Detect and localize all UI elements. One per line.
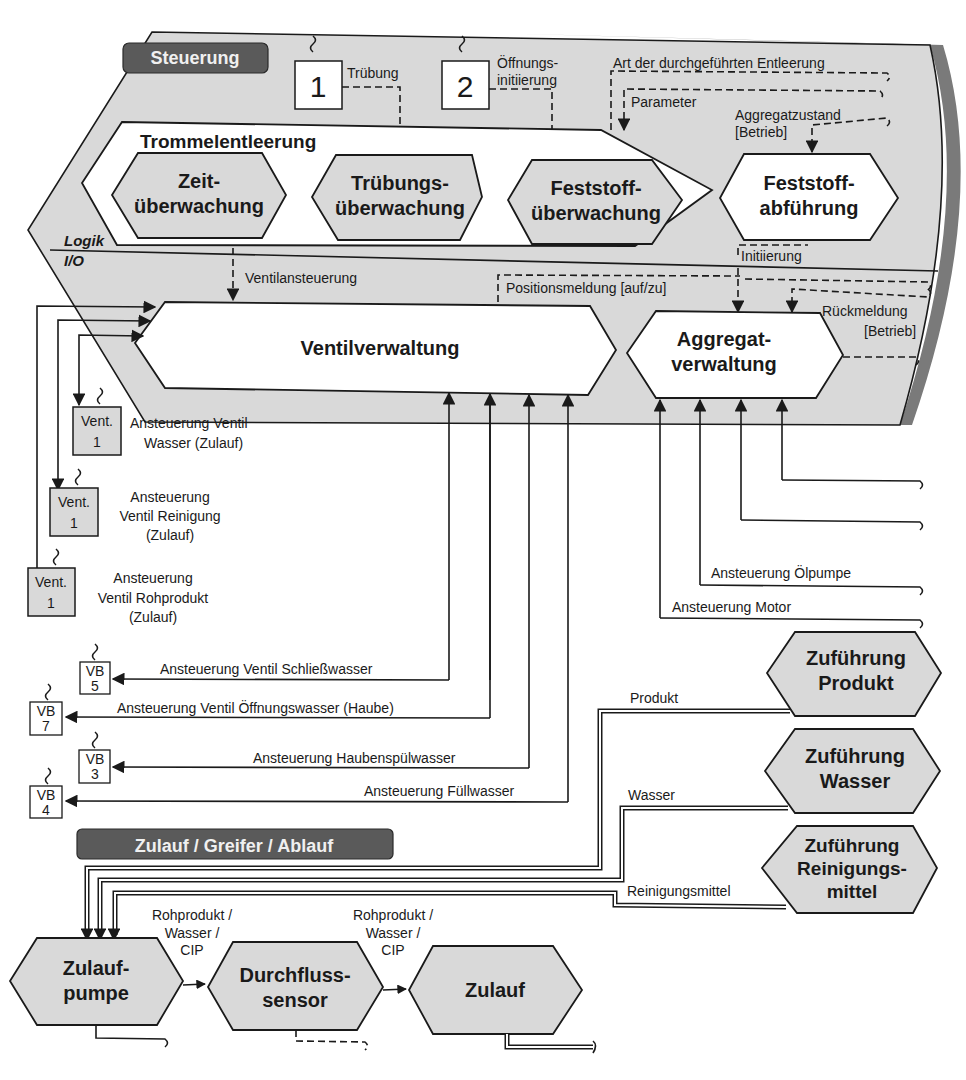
aggregat-horizontal-3 [741,520,923,530]
valve-wasser-label-1: Ansteuerung Ventil [130,415,248,431]
module-zeitueberwachung[interactable]: Zeit- überwachung [112,153,286,238]
signal-label-aggregatzustand-betrieb: [Betrieb] [735,124,787,140]
vb5-label: Ansteuerung Ventil Schließwasser [160,661,373,677]
svg-text:Wasser: Wasser [820,770,891,792]
layer-label-io: I/O [64,252,84,269]
pipe-label-produkt: Produkt [630,690,678,706]
flow-arrow-2 [383,989,406,990]
wire-icon [46,684,51,700]
wire-icon [93,732,98,748]
valve-vb3[interactable]: VB 3 [79,732,110,783]
trommelentleerung-title: Trommelentleerung [140,131,316,152]
sensor-2-label-line2: initiierung [497,72,557,88]
flow-label-1-line2: Wasser / [165,925,220,941]
module-aggregatverwaltung[interactable]: Aggregat- verwaltung [627,311,843,398]
svg-text:überwachung: überwachung [134,195,264,217]
module-ventilverwaltung[interactable]: Ventilverwaltung [135,302,616,395]
svg-text:VB: VB [86,751,105,767]
supply-produkt[interactable]: Zuführung Produkt [767,632,941,716]
svg-text:Produkt: Produkt [818,672,894,694]
svg-text:Feststoff-: Feststoff- [763,172,854,194]
sensor-2-label-line1: Öffnungs- [497,54,559,71]
sensor-1-label: Trübung [347,65,399,81]
vb3-label: Ansteuerung Haubenspülwasser [253,750,456,766]
svg-text:pumpe: pumpe [63,982,129,1004]
svg-text:sensor: sensor [262,989,328,1011]
vb3-horizontal [113,767,529,768]
sensor-2-number: 2 [457,70,474,103]
signal-label-oelpumpe: Ansteuerung Ölpumpe [711,564,851,581]
valve-rohprodukt-label-1: Ansteuerung [113,570,192,586]
svg-text:überwachung: überwachung [531,202,661,224]
svg-text:VB: VB [37,703,56,719]
svg-text:mittel: mittel [827,881,878,902]
module-truebungsueberwachung[interactable]: Trübungs- überwachung [312,155,482,240]
vb7-label: Ansteuerung Ventil Öffnungswasser (Haube… [117,699,394,716]
module-feststoffueberwachung[interactable]: Feststoff- überwachung [508,160,682,244]
signal-label-positionsmeldung: Positionsmeldung [auf/zu] [506,280,666,296]
svg-text:Zulauf-: Zulauf- [63,957,130,979]
svg-text:Vent.: Vent. [58,494,90,510]
steuerung-header: Steuerung [123,43,268,73]
svg-text:überwachung: überwachung [335,197,465,219]
flow-arrow-1 [183,984,205,985]
motor-horizontal [660,618,923,628]
zulauf-greifer-ablauf-title: Zulauf / Greifer / Ablauf [135,836,334,856]
pipe-label-wasser: Wasser [628,787,675,803]
valve-wasser-label-2: Wasser (Zulauf) [144,435,243,451]
svg-text:Aggregat-: Aggregat- [677,328,771,350]
svg-text:Zuführung: Zuführung [805,835,900,856]
pipe-label-reinigungsmittel: Reinigungsmittel [627,883,731,899]
signal-label-initiierung: Initiierung [741,248,802,264]
wire-icon [98,388,103,404]
svg-text:verwaltung: verwaltung [671,353,777,375]
svg-text:Durchfluss-: Durchfluss- [239,964,350,986]
wire-icon [46,768,51,784]
svg-text:Ventilverwaltung: Ventilverwaltung [301,337,460,359]
valve-rohprodukt-label-3: (Zulauf) [129,609,177,625]
flow-label-1-line3: CIP [180,942,203,958]
svg-text:4: 4 [42,802,50,818]
svg-text:Feststoff-: Feststoff- [550,177,641,199]
svg-text:7: 7 [42,718,50,734]
zulaufpumpe-outlet [96,1025,168,1047]
layer-label-logik: Logik [64,232,105,249]
valve-vb7[interactable]: VB 7 [30,684,62,735]
flow-label-2-line2: Wasser / [366,925,421,941]
valve-vent-wasser[interactable]: Vent. 1 [73,388,121,455]
valve-vb4[interactable]: VB 4 [30,768,62,818]
wire-icon [76,469,81,485]
module-zulauf[interactable]: Zulauf [409,946,582,1034]
signal-label-rueckmeldung-betrieb: [Betrieb] [864,323,916,339]
valve-reinigung-label-3: (Zulauf) [146,527,194,543]
svg-text:1: 1 [47,595,55,611]
supply-wasser[interactable]: Zuführung Wasser [765,729,940,813]
svg-text:abführung: abführung [760,197,859,219]
svg-text:VB: VB [37,787,56,803]
valve-vent-rohprodukt[interactable]: Vent. 1 [28,549,75,616]
svg-text:Vent.: Vent. [35,574,67,590]
svg-text:Zulauf: Zulauf [465,979,525,1001]
vb4-horizontal [66,801,568,802]
module-feststoffabfuehrung[interactable]: Feststoff- abführung [720,154,898,240]
flow-label-1-line1: Rohprodukt / [152,907,232,923]
zulauf-outlet-pipe [507,1034,596,1053]
svg-text:Zeit-: Zeit- [178,170,220,192]
sensor-1-number: 1 [310,70,327,103]
signal-label-motor: Ansteuerung Motor [672,599,791,615]
durchflusssensor-outlet [296,1030,368,1050]
flow-label-2-line1: Rohprodukt / [353,907,433,923]
wire-icon [54,549,59,565]
module-zulaufpumpe[interactable]: Zulauf- pumpe [10,938,183,1025]
signal-label-parameter: Parameter [631,94,697,110]
svg-text:Zuführung: Zuführung [805,745,905,767]
svg-text:Reinigungs-: Reinigungs- [797,858,907,879]
signal-label-aggregatzustand: Aggregatzustand [735,107,841,123]
svg-text:3: 3 [91,766,99,782]
oelpumpe-horizontal [700,585,923,595]
zulauf-greifer-ablauf-header: Zulauf / Greifer / Ablauf [77,829,393,859]
vb4-label: Ansteuerung Füllwasser [364,783,515,799]
supply-reinigungsmittel[interactable]: Zuführung Reinigungs- mittel [762,826,937,913]
valve-vb5[interactable]: VB 5 [80,644,110,694]
module-durchflusssensor[interactable]: Durchfluss- sensor [208,942,383,1030]
